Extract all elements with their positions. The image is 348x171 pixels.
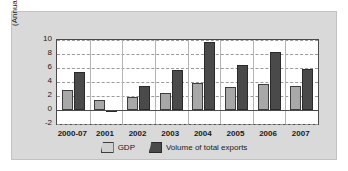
- x-axis-tick-label: 2007: [284, 129, 317, 138]
- bar: [225, 87, 236, 110]
- chart-legend: GDPVolume of total exports: [12, 142, 336, 153]
- y-axis-tick-label: 10: [34, 35, 52, 43]
- category-separator: [122, 40, 123, 124]
- y-axis-tick-label: -2: [34, 119, 52, 127]
- legend-swatch-gdp-icon: [101, 142, 114, 153]
- x-axis-tick-label: 2002: [121, 129, 154, 138]
- bar: [237, 65, 248, 110]
- category-separator: [155, 40, 156, 124]
- y-axis-title: (Annual percentage change): [10, 0, 19, 26]
- x-axis-tick-label: 2004: [187, 129, 220, 138]
- bar: [160, 93, 171, 111]
- category-separator: [253, 40, 254, 124]
- x-axis-tick-label: 2000-07: [56, 129, 89, 138]
- x-axis-tick-label: 2005: [219, 129, 252, 138]
- category-separator: [220, 40, 221, 124]
- y-axis-tick-label: 0: [34, 105, 52, 113]
- legend-label: GDP: [118, 143, 135, 152]
- bar: [258, 84, 269, 110]
- legend-item: GDP: [101, 142, 135, 153]
- bar: [290, 86, 301, 110]
- category-separator: [285, 40, 286, 124]
- category-separator: [188, 40, 189, 124]
- x-axis-tick-label: 2006: [252, 129, 285, 138]
- bar: [192, 83, 203, 110]
- y-axis-tick-label: 4: [34, 77, 52, 85]
- bar: [302, 69, 313, 110]
- bar: [172, 70, 183, 110]
- bar: [270, 52, 281, 110]
- bar: [62, 90, 73, 110]
- bar: [94, 100, 105, 110]
- y-axis-tick-label: 8: [34, 49, 52, 57]
- x-axis-tick-label: 2003: [154, 129, 187, 138]
- y-axis-tick-label: 2: [34, 91, 52, 99]
- bar: [204, 42, 215, 110]
- chart-figure: (Annual percentage change) 1086420-2 200…: [11, 11, 337, 160]
- bar: [139, 86, 150, 111]
- bar: [127, 97, 138, 110]
- legend-label: Volume of total exports: [166, 143, 247, 152]
- gridline: [57, 124, 318, 125]
- legend-item: Volume of total exports: [149, 142, 247, 153]
- y-axis-tick-label: 6: [34, 63, 52, 71]
- zero-line: [57, 110, 318, 111]
- plot-area: [56, 39, 319, 125]
- legend-swatch-exports-icon: [149, 142, 162, 153]
- bar: [74, 72, 85, 111]
- x-axis-tick-label: 2001: [89, 129, 122, 138]
- category-separator: [90, 40, 91, 124]
